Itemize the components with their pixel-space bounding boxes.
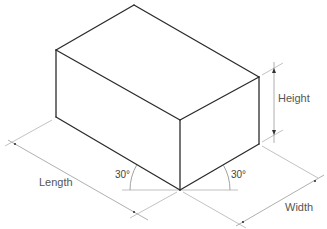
width-tick-bottom-icon [242,221,244,223]
box-outline [56,5,259,190]
height-extension-bottom [262,130,283,142]
edge-bottom-right [180,144,259,190]
length-tick-right-icon [133,211,135,213]
edge-top-front-right [180,77,259,120]
length-dimension-line [8,140,148,220]
length-tick-left-icon [14,143,16,145]
width-dimension [183,146,324,228]
angle-arc-left [130,165,137,190]
edge-top-front-left [56,50,180,120]
height-label: Height [278,92,310,104]
length-label: Length [39,176,73,188]
angle-label-right: 30° [231,169,246,180]
width-extension-top [262,146,318,178]
length-dimension [5,120,177,220]
angle-arc-right [223,165,230,190]
edge-top-back-right [134,5,259,77]
width-label: Width [285,201,313,213]
edge-top-back-left [56,5,134,50]
width-tick-top-icon [314,180,316,182]
isometric-box-diagram: Height Length Width 30° 30° [0,0,327,229]
angle-label-left: 30° [115,169,130,180]
height-extension-top [262,63,283,75]
width-extension-bottom [183,192,246,228]
